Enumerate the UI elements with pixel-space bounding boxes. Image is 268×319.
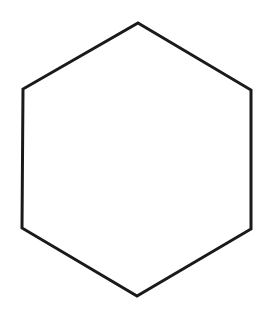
- hexagon-shape: [22, 23, 251, 296]
- diagram-canvas: [0, 0, 268, 319]
